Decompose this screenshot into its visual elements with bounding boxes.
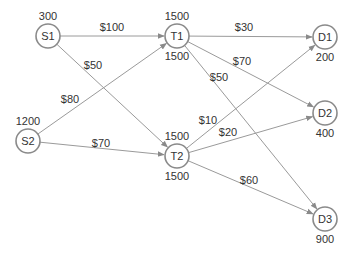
edge-cost-label: $60 bbox=[240, 174, 258, 186]
nodes: S1300S21200T115001500T215001500D1200D240… bbox=[16, 10, 337, 245]
node-d1: D1200 bbox=[313, 25, 337, 63]
node-value-below: 200 bbox=[316, 51, 334, 63]
node-label: S2 bbox=[21, 135, 34, 147]
node-value-above: 1200 bbox=[16, 115, 40, 127]
edges bbox=[38, 36, 317, 214]
edge-s2-t1 bbox=[38, 43, 167, 134]
edge-labels: $100$50$80$70$30$70$50$10$20$60 bbox=[61, 21, 258, 186]
edge-cost-label: $50 bbox=[84, 59, 102, 71]
node-d2: D2400 bbox=[313, 101, 337, 139]
edge-cost-label: $70 bbox=[92, 137, 110, 149]
node-t2: T215001500 bbox=[165, 130, 189, 182]
node-value-above: 1500 bbox=[165, 10, 189, 22]
transshipment-network-diagram: $100$50$80$70$30$70$50$10$20$60 S1300S21… bbox=[0, 0, 356, 257]
node-t1: T115001500 bbox=[165, 10, 189, 62]
node-label: D3 bbox=[318, 213, 332, 225]
node-value-above: 1500 bbox=[165, 130, 189, 142]
node-d3: D3900 bbox=[313, 207, 337, 245]
node-value-below: 400 bbox=[316, 127, 334, 139]
node-value-below: 900 bbox=[316, 233, 334, 245]
node-label: T1 bbox=[171, 30, 184, 42]
node-s2: S21200 bbox=[16, 115, 40, 153]
node-value-above: 300 bbox=[39, 10, 57, 22]
edge-cost-label: $30 bbox=[235, 21, 253, 33]
node-label: T2 bbox=[171, 150, 184, 162]
edge-cost-label: $70 bbox=[233, 55, 251, 67]
node-label: D1 bbox=[318, 31, 332, 43]
edge-cost-label: $20 bbox=[219, 126, 237, 138]
node-value-below: 1500 bbox=[165, 50, 189, 62]
node-label: S1 bbox=[41, 30, 54, 42]
edge-cost-label: $10 bbox=[199, 114, 217, 126]
edge-cost-label: $80 bbox=[61, 93, 79, 105]
edge-cost-label: $50 bbox=[210, 71, 228, 83]
node-s1: S1300 bbox=[36, 10, 60, 48]
edge-t1-d1 bbox=[189, 36, 312, 37]
node-label: D2 bbox=[318, 107, 332, 119]
node-value-below: 1500 bbox=[165, 170, 189, 182]
edge-cost-label: $100 bbox=[100, 21, 124, 33]
edge-t2-d3 bbox=[188, 161, 313, 214]
